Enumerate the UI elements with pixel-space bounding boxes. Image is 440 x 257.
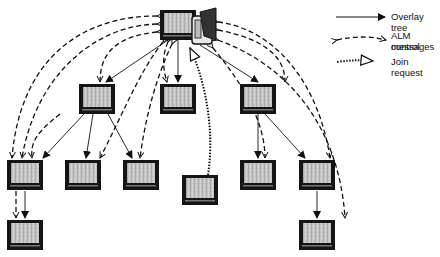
node-joining — [182, 175, 218, 205]
legend-alm-control-line2: messages — [391, 41, 434, 52]
node-l2a — [7, 160, 43, 190]
alm-overlay-diagram: Overlay tree ALM control messages Join r… — [0, 0, 440, 257]
node-l1b — [160, 84, 196, 114]
legend-join-request: Join request — [391, 56, 440, 78]
node-l2b — [65, 160, 101, 190]
overlay-tree-edges — [25, 40, 317, 218]
node-root — [160, 10, 196, 40]
node-l1c — [240, 84, 276, 114]
diagram-canvas — [0, 0, 440, 257]
node-l1a — [79, 84, 115, 114]
legend-symbols — [336, 17, 386, 62]
node-l3b — [299, 220, 335, 250]
node-l2c — [123, 160, 159, 190]
node-l2e — [299, 160, 335, 190]
node-l2d — [240, 160, 276, 190]
alm-control-edges — [12, 16, 345, 218]
node-l3a — [7, 220, 43, 250]
